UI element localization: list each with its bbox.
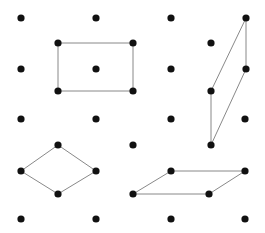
grid-dot [242,14,249,21]
grid-dot [129,190,136,197]
grid-dot [54,190,61,197]
dot-grid-diagram [0,0,265,233]
grid-dot [54,87,61,94]
grid-dot [167,215,174,222]
grid-dot [92,167,99,174]
grid-dot [207,141,214,148]
grid-dot [17,14,24,21]
grid-dot [242,65,249,72]
grid-dot [17,167,24,174]
grid-dot [129,141,136,148]
grid-dot [17,65,24,72]
grid-dot [129,87,136,94]
grid-dot [167,14,174,21]
grid-dot [167,167,174,174]
grid-dot [54,39,61,46]
diagram-svg [0,0,265,233]
dots-layer [17,14,249,222]
grid-dot [92,65,99,72]
rhombus-shape [21,145,96,194]
flat-parallelogram-shape [133,171,245,194]
grid-dot [241,167,248,174]
grid-dot [92,115,99,122]
grid-dot [207,87,214,94]
grid-dot [129,39,136,46]
grid-dot [54,141,61,148]
tall-parallelogram-shape [211,18,246,145]
grid-dot [92,215,99,222]
grid-dot [241,115,248,122]
grid-dot [207,39,214,46]
grid-dot [92,14,99,21]
grid-dot [167,65,174,72]
grid-dot [17,215,24,222]
grid-dot [17,115,24,122]
grid-dot [241,215,248,222]
grid-dot [167,115,174,122]
grid-dot [205,190,212,197]
